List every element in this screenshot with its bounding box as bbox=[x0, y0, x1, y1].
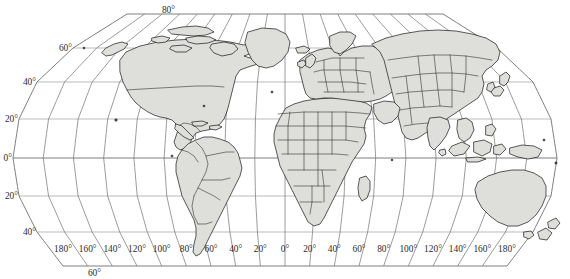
island-dot-fiji bbox=[555, 162, 557, 164]
latitude-label-60N: 60° bbox=[59, 43, 72, 53]
landmass-arabia bbox=[374, 101, 400, 124]
landmass-new-guinea bbox=[510, 145, 542, 159]
cropped-header-text bbox=[150, 0, 320, 6]
longitude-label--20: 20° bbox=[254, 244, 267, 254]
landmass-sri-lanka bbox=[439, 149, 446, 156]
landmasses bbox=[83, 26, 560, 256]
longitude-label--80: 80° bbox=[180, 244, 193, 254]
longitude-label--40: 40° bbox=[229, 244, 242, 254]
longitude-label--140: 140° bbox=[103, 244, 121, 254]
longitude-label-20: 20° bbox=[303, 244, 316, 254]
latitude-label-20S: 20° bbox=[5, 191, 18, 201]
longitude-label-40: 40° bbox=[328, 244, 341, 254]
latitude-label-60S: 60° bbox=[88, 268, 101, 278]
landmass-australia bbox=[475, 170, 546, 226]
island-dot-azores bbox=[271, 91, 273, 93]
longitude-label--160: 160° bbox=[79, 244, 97, 254]
longitude-label-160: 160° bbox=[473, 244, 491, 254]
landmass-alaska bbox=[102, 42, 128, 56]
landmass-philippines bbox=[486, 124, 496, 136]
landmass-north-america bbox=[120, 39, 268, 150]
island-dot-pacific-a bbox=[83, 47, 85, 49]
longitude-label--60: 60° bbox=[204, 244, 217, 254]
landmass-japan bbox=[500, 72, 510, 86]
longitude-label--180: 180° bbox=[54, 244, 72, 254]
longitude-label--120: 120° bbox=[128, 244, 146, 254]
landmass-south-america bbox=[176, 137, 242, 256]
longitude-label-80: 80° bbox=[377, 244, 390, 254]
landmass-africa bbox=[274, 98, 372, 226]
landmass-sumatra bbox=[449, 142, 470, 156]
landmass-madagascar bbox=[358, 176, 370, 201]
latitude-label-40S: 40° bbox=[23, 227, 36, 237]
longitude-label-180: 180° bbox=[498, 244, 516, 254]
landmass-indochina bbox=[457, 118, 474, 142]
landmass-arctic-islands-a bbox=[168, 26, 214, 36]
landmass-borneo bbox=[474, 140, 492, 156]
island-dot-hawaii bbox=[115, 119, 118, 122]
longitude-label-120: 120° bbox=[424, 244, 442, 254]
world-map-svg: 80°60°40°20°0°20°40°60°180°160°140°120°1… bbox=[0, 0, 570, 279]
landmass-new-zealand-south bbox=[538, 228, 552, 240]
latitude-label-40N: 40° bbox=[23, 77, 36, 87]
longitude-label-0: 0° bbox=[281, 244, 290, 254]
latitude-label-80N: 80° bbox=[162, 5, 175, 15]
island-dot-galapagos bbox=[171, 155, 173, 157]
landmass-iceland bbox=[296, 46, 310, 53]
island-dot-atlantic bbox=[203, 105, 205, 107]
longitude-label-140: 140° bbox=[449, 244, 467, 254]
latitude-label-0N: 0° bbox=[4, 153, 13, 163]
landmass-india bbox=[427, 117, 450, 150]
longitude-label-60: 60° bbox=[352, 244, 365, 254]
island-dot-indian bbox=[391, 159, 393, 161]
landmass-sulawesi bbox=[494, 144, 506, 155]
landmass-hispaniola bbox=[210, 125, 222, 130]
world-map-figure: 80°60°40°20°0°20°40°60°180°160°140°120°1… bbox=[0, 0, 570, 279]
longitude-label-100: 100° bbox=[399, 244, 417, 254]
island-dot-pacific-b bbox=[543, 139, 545, 141]
longitude-label--100: 100° bbox=[153, 244, 171, 254]
latitude-label-20N: 20° bbox=[5, 114, 18, 124]
landmass-new-zealand-north bbox=[548, 218, 560, 229]
